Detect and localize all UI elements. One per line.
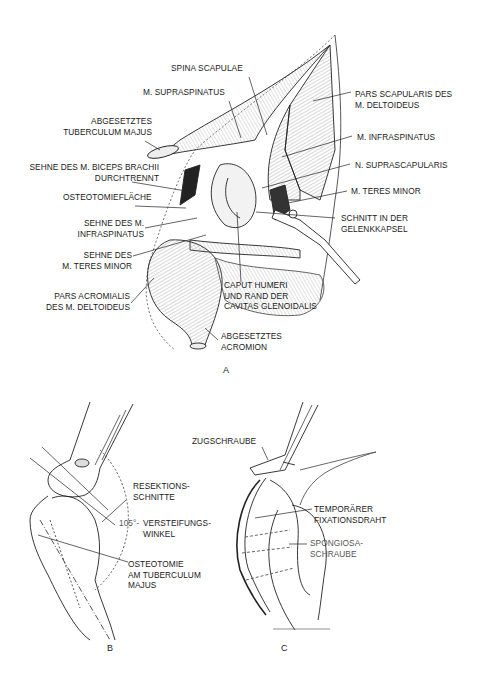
label-sehne-biceps: SEHNE DES M. BICEPS BRACHII DURCHTRENNT (18, 162, 159, 183)
label-angle-value: 105°- (119, 518, 139, 529)
panel-letter-b: B (107, 643, 113, 653)
label-m-infraspinatus: M. INFRASPINATUS (357, 132, 435, 143)
label-pars-acromialis: PARS ACROMIALIS DES M. DELTOIDEUS (38, 291, 130, 312)
panel-b-drawing (30, 402, 133, 640)
label-m-supraspinatus: M. SUPRASPINATUS (143, 87, 225, 98)
label-sehne-infraspinatus: SEHNE DES M. INFRASPINATUS (60, 218, 144, 239)
panel-c-leader-lines (255, 447, 312, 544)
label-zugschraube: ZUGSCHRAUBE (192, 436, 256, 447)
panel-letter-a: A (223, 365, 229, 375)
label-caput-humeri: CAPUT HUMERI UND RAND DER CAVITAS GLENOI… (224, 280, 317, 312)
panel-letter-c: C (281, 643, 288, 653)
label-osteotomieflaeche: OSTEOTOMIEFLÄCHE (63, 192, 152, 203)
label-sehne-teres-minor: SEHNE DES M. TERES MINOR (50, 250, 132, 271)
label-fixationsdraht: TEMPORÄRER FIXATIONSDRAHT (314, 504, 386, 525)
label-spongiosaschraube: SPONGIOSA- SCHRAUBE (310, 538, 363, 559)
label-n-suprascapularis: N. SUPRASCAPULARIS (355, 160, 448, 171)
label-abgesetztes-tuberculum: ABGESETZTES TUBERCULUM MAJUS (56, 116, 152, 137)
label-m-teres-minor: M. TERES MINOR (351, 186, 421, 197)
label-pars-scapularis: PARS SCAPULARIS DES M. DELTOIDEUS (355, 89, 452, 110)
label-spina-scapulae: SPINA SCAPULAE (171, 63, 243, 74)
panel-b-leader-lines (38, 535, 128, 562)
label-versteifungswinkel: VERSTEIFUNGS- WINKEL (143, 518, 211, 539)
label-osteotomie: OSTEOTOMIE AM TUBERCULUM MAJUS (128, 559, 201, 591)
label-abgesetztes-acromion: ABGESETZTES ACROMION (221, 331, 282, 352)
label-resektionsschnitte: RESEKTIONS- SCHNITTE (133, 481, 190, 502)
label-schnitt-gelenkkapsel: SCHNITT IN DER GELENKKAPSEL (341, 213, 408, 234)
